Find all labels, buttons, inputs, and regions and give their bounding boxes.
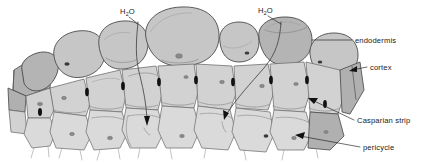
label-endodermis: endodermis	[355, 36, 396, 45]
label-pericycle: pericycle	[363, 143, 394, 152]
endodermis-cell-4	[122, 66, 162, 110]
pericycle-cell-7-nucleus	[264, 134, 269, 137]
cortex-cell-5	[220, 22, 259, 62]
endodermis-cell-2-nucleus	[62, 96, 67, 99]
casparian-strip-mark-3	[121, 82, 125, 90]
root-hair-7	[138, 148, 140, 158]
root-hair-3	[59, 148, 62, 158]
root-hair-8	[170, 148, 172, 159]
pericycle-cut-nucleus	[324, 131, 328, 134]
cortex-cell-4-nucleus	[176, 54, 183, 59]
cortex-cell-6	[259, 17, 312, 65]
root-hair-12	[316, 148, 318, 158]
casparian-strip-mark-5	[194, 76, 198, 84]
label-casparian-strip: Casparian strip	[357, 116, 410, 125]
endodermis-cell-3	[86, 70, 126, 112]
endodermis-cell-5-nucleus	[184, 76, 188, 79]
pericycle-cell-7	[232, 108, 274, 152]
casparian-strip-mark-6	[231, 78, 235, 86]
endodermis-cell-7-nucleus	[260, 84, 265, 87]
casparian-strip-mark-1	[38, 108, 42, 116]
pericycle-cell-5-nucleus	[180, 134, 185, 137]
pericycle-cell-8-nucleus	[292, 136, 297, 139]
casparian-strip-mark-2	[85, 88, 89, 96]
casparian-strip-mark-4	[157, 78, 161, 86]
cortex-cell-7-nucleus	[318, 61, 323, 64]
endodermis-cell-6-nucleus	[220, 80, 225, 83]
pericycle-cell-2	[50, 112, 92, 150]
root-hair-11	[282, 150, 284, 160]
endodermis-cell-8-nucleus	[294, 82, 299, 85]
endodermis-cell-7	[234, 64, 274, 110]
cortex-cell-5-nucleus	[245, 51, 250, 54]
cortex-cell-3	[99, 21, 148, 69]
label-cortex: cortex	[370, 63, 392, 72]
cortex-cell-1	[22, 52, 59, 91]
endodermis-cell-5	[158, 64, 198, 108]
endodermis-cell-8	[270, 62, 310, 112]
cortex-cell-2-nucleus	[64, 62, 69, 65]
root-hair-10	[244, 150, 246, 160]
pericycle-cell-5	[158, 106, 200, 148]
root-hair-4	[80, 150, 82, 160]
root-hair-5	[97, 150, 100, 160]
root-anatomy-illustration: H2O H2O endodermis cortex Casparian stri…	[0, 0, 429, 163]
endodermis-cell-1-nucleus	[37, 102, 42, 106]
casparian-strip-mark-8	[305, 76, 309, 84]
root-hair-2	[48, 146, 49, 157]
cortex-cell-2	[54, 31, 105, 78]
pericycle-cell-2-nucleus	[70, 132, 75, 135]
pericycle-cell-3-nucleus	[107, 136, 112, 140]
label-water-left: H2O	[120, 7, 135, 17]
casparian-strip-mark-7	[269, 76, 273, 84]
pericycle-cell-8	[270, 110, 312, 150]
root-hair-9	[204, 148, 206, 158]
root-anatomy-figure: H2O H2O endodermis cortex Casparian stri…	[0, 0, 429, 163]
label-water-right: H2O	[258, 6, 273, 16]
root-hair-6	[118, 148, 120, 159]
root-hair-1	[31, 148, 34, 158]
cortex-cell-4	[146, 7, 219, 66]
pericycle-cell-4	[122, 108, 164, 148]
pericycle-cell-6	[194, 106, 236, 150]
cut-face-endodermis-left	[9, 110, 27, 134]
